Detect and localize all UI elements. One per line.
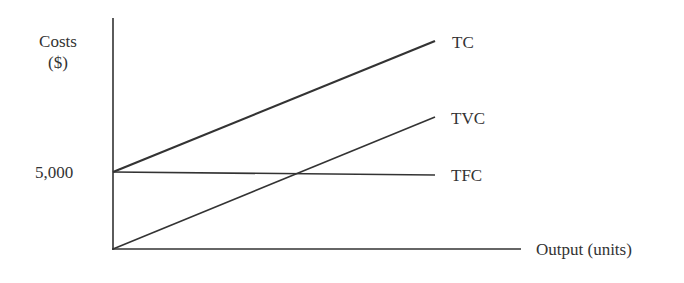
tfc-line — [113, 172, 435, 175]
y-axis-label-line2: ($) — [28, 52, 88, 73]
y-axis-label-line1: Costs — [28, 31, 88, 52]
y-axis-label: Costs ($) — [28, 31, 88, 73]
tc-line — [113, 41, 435, 172]
tc-label: TC — [452, 34, 474, 51]
x-axis-label: Output (units) — [536, 241, 632, 258]
y-tick-5000: 5,000 — [35, 164, 73, 181]
tfc-label: TFC — [451, 167, 482, 184]
tvc-label: TVC — [451, 110, 485, 127]
tvc-line — [113, 117, 435, 249]
cost-curves-chart: Costs ($) 5,000 TC TVC TFC Output (units… — [0, 0, 684, 283]
